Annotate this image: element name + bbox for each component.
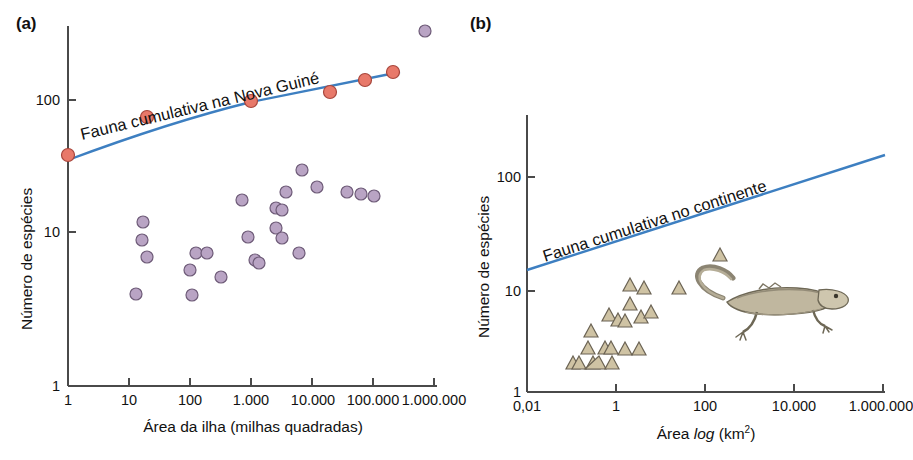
- panel-a-xtick-10000: 10.000: [291, 392, 335, 408]
- panel-a: (a): [0, 0, 445, 460]
- lizard-illustration: [697, 267, 848, 340]
- panel-a-cumulative-points: [62, 66, 400, 162]
- panel-b-x-axis-title: Área log (km2): [527, 424, 885, 443]
- panel-b-ytick-100: 100: [469, 169, 521, 185]
- panel-a-xtick-1: 1: [64, 392, 72, 408]
- panel-a-xtick-1000: 1.000: [233, 392, 269, 408]
- panel-a-x-axis-title: Área da ilha (milhas quadradas): [68, 418, 438, 436]
- panel-b-x-axis-title-unit: (km: [719, 425, 745, 442]
- panel-b-x-axis-title-main: Área: [657, 425, 690, 442]
- panel-a-curve-label: Fauna cumulativa na Nova Guiné: [78, 68, 320, 143]
- panel-b-xtick-1: 1: [612, 398, 620, 414]
- panel-a-x-ticks: [68, 378, 434, 386]
- panel-a-xtick-100: 100: [178, 392, 202, 408]
- panel-b-x-axis-title-log: log: [694, 425, 715, 442]
- panel-b-x-ticks: [527, 384, 883, 392]
- panel-b-y-ticks: [527, 177, 535, 392]
- panel-b-curve-label: Fauna cumulativa no continente: [540, 176, 768, 265]
- panel-b-xtick-1000000: 1.000.000: [849, 398, 913, 414]
- panel-b-x-axis-title-close: ): [750, 425, 755, 442]
- panel-b-xtick-10000: 10.000: [772, 398, 816, 414]
- panel-a-xtick-100000: 100.000: [347, 392, 399, 408]
- panel-a-y-axis-title: Número de espécies: [18, 188, 36, 330]
- panel-b-y-axis-title: Número de espécies: [475, 196, 493, 338]
- panel-a-ytick-1: 1: [16, 378, 60, 394]
- panel-b: (b): [445, 0, 890, 460]
- panel-a-xtick-10: 10: [121, 392, 137, 408]
- panel-a-ytick-100: 100: [8, 92, 60, 108]
- panel-b-xtick-100: 100: [693, 398, 717, 414]
- panel-a-plot: Fauna cumulativa na Nova Guiné: [0, 0, 445, 460]
- panel-b-xtick-001: 0,01: [513, 398, 541, 414]
- panel-a-y-ticks: [68, 100, 76, 386]
- panel-a-island-points: [130, 25, 431, 301]
